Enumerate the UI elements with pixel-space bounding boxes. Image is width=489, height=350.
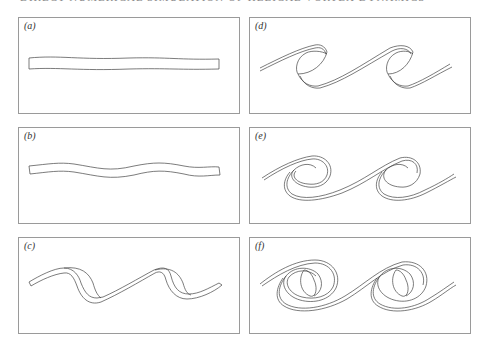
panel-a: (a) [18,17,240,114]
vortex-sheet-rollup-start [250,18,472,115]
panel-b: (b) [18,127,240,224]
vortex-sheet-rolled [250,128,472,225]
panel-c: (c) [18,237,240,334]
running-header: DIRECT NUMERICAL SIMULATION OF HELICAL V… [20,0,425,3]
panel-d: (d) [249,17,471,114]
vortex-sheet-steepened [19,238,241,335]
panel-f: (f) [249,237,471,334]
vortex-sheet-flat [19,18,241,115]
vortex-sheet-fully-rolled [250,238,472,335]
panel-e: (e) [249,127,471,224]
vortex-sheet-wavy [19,128,241,225]
